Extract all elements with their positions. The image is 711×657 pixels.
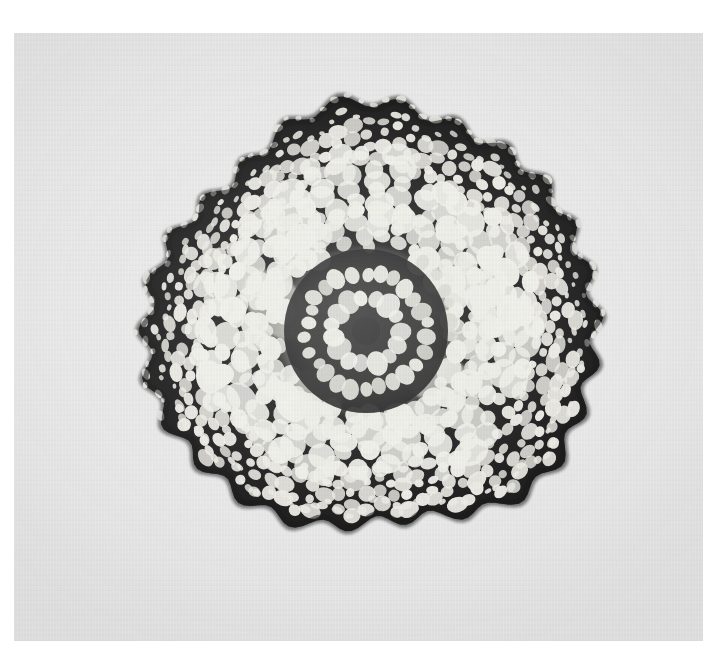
specimen-cross-section (14, 33, 703, 641)
cell-lumen (366, 413, 384, 430)
photo-plate (14, 33, 703, 641)
stele-core (352, 317, 380, 345)
stele-layer (284, 249, 448, 413)
micrograph-figure (0, 0, 711, 657)
